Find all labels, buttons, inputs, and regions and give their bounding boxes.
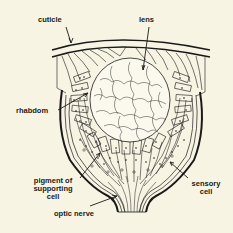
label-sensory-cell: sensory cell — [186, 180, 226, 196]
label-cuticle: cuticle — [38, 16, 62, 24]
label-optic-nerve: optic nerve — [54, 210, 94, 218]
label-lens: lens — [139, 16, 154, 24]
lens — [90, 58, 170, 142]
label-pigment-of-supporting-cell: pigment of supporting cell — [26, 177, 80, 201]
pigment-pointer — [80, 153, 100, 178]
label-pigment-line3: cell — [26, 193, 80, 201]
label-rhabdom: rhabdom — [16, 107, 48, 115]
label-sensory-line2: cell — [186, 188, 226, 196]
